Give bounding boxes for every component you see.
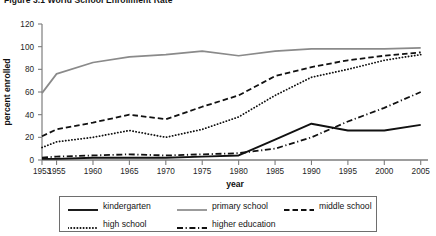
legend-label-high-school: high school [103,220,146,229]
x-axis-title: year [226,179,244,189]
legend-swatch-kindergarten [68,201,98,211]
y-axis-tick-label: 80 [25,65,35,74]
y-axis-tick-label: 0 [29,156,34,165]
x-axis-tick-label: 1970 [157,167,176,176]
chart-legend: kindergarten primary school middle schoo… [59,196,377,232]
series-line-high-school [42,55,421,148]
legend-row: high school higher education [60,215,376,233]
legend-swatch-primary-school [177,201,207,211]
legend-label-primary-school: primary school [212,202,268,211]
legend-item-primary-school[interactable]: primary school [177,197,268,215]
y-axis-tick-label: 20 [25,133,35,142]
data-series-group [42,48,421,159]
legend-row: kindergarten primary school middle schoo… [60,197,376,215]
x-axis-tick-label: 2000 [375,167,394,176]
x-axis-tick-label: 1965 [120,167,139,176]
series-line-middle-school [42,52,421,136]
y-axis-tick-label: 60 [25,88,35,97]
legend-item-kindergarten[interactable]: kindergarten [68,197,151,215]
legend-label-middle-school: middle school [319,202,372,211]
x-axis-tick-label: 1960 [84,167,103,176]
legend-label-kindergarten: kindergarten [103,202,151,211]
legend-swatch-high-school [68,219,98,229]
x-axis-tick-label: 1955 [47,167,66,176]
legend-item-middle-school[interactable]: middle school [284,197,372,215]
x-axis-tick-label: 1985 [266,167,285,176]
x-axis-tick-label: 1980 [230,167,249,176]
x-axis-tick-label: 1990 [302,167,321,176]
y-axis-title: percent enrolled [2,59,12,126]
chart-plot-area: 020406080100120 195319551960196519701975… [0,8,436,190]
legend-swatch-higher-education [177,219,207,229]
enrollment-line-chart: 020406080100120 195319551960196519701975… [0,8,436,190]
legend-item-high-school[interactable]: high school [68,215,146,233]
series-line-higher-education [42,92,421,158]
y-axis-tick-label: 100 [20,43,34,52]
y-axis-tick-label: 40 [25,111,35,120]
legend-label-higher-education: higher education [212,220,276,229]
legend-item-higher-education[interactable]: higher education [177,215,276,233]
x-axis-tick-label: 1995 [339,167,358,176]
series-line-primary-school [42,48,421,93]
x-axis-tick-label: 2005 [412,167,431,176]
x-axis-tick-group: 1953195519601965197019751980198519901995… [33,160,430,176]
x-axis-tick-label: 1975 [193,167,212,176]
y-axis-tick-group: 020406080100120 [20,20,42,165]
legend-swatch-middle-school [284,201,314,211]
figure-title: Figure 3.1 World School Enrollment Rate [4,0,173,5]
y-axis-tick-label: 120 [20,20,34,29]
